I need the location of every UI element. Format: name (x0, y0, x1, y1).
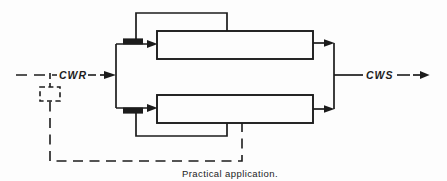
cws-label: CWS (366, 69, 394, 81)
background (0, 0, 447, 181)
upper-pump-icon (123, 38, 143, 44)
piping-diagram: CWR CWS Practical application. (0, 0, 447, 181)
figure-canvas: CWR CWS Practical application. (0, 0, 447, 181)
upper-equipment-box (157, 31, 313, 59)
figure-caption: Practical application. (182, 168, 278, 179)
lower-equipment-box (157, 95, 313, 123)
lower-pump-icon (123, 108, 143, 114)
cwr-label: CWR (59, 69, 87, 81)
